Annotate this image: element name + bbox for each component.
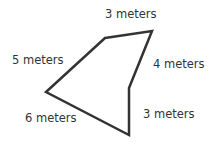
side-label-bottom-left: 6 meters: [25, 111, 77, 125]
side-label-upper-right: 4 meters: [153, 57, 205, 71]
pentagon-diagram: 3 meters 4 meters 3 meters 6 meters 5 me…: [0, 0, 213, 148]
side-label-top: 3 meters: [105, 7, 157, 21]
side-label-upper-left: 5 meters: [12, 53, 64, 67]
side-label-lower-right: 3 meters: [143, 107, 195, 121]
